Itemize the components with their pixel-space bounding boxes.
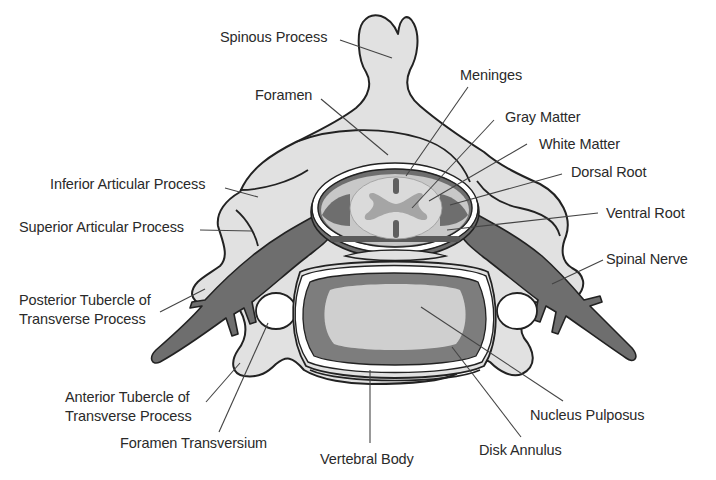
label-text: Foramen [255,87,312,103]
label-foramen: Foramen [255,86,312,105]
label-anterior-tubercle: Anterior Tubercle ofTransverse Process [65,388,192,426]
label-text: Superior Articular Process [19,219,184,235]
foramen-transversarium-left [256,293,296,329]
label-white-matter: White Matter [539,135,620,154]
label-text: Foramen Transversium [120,435,267,451]
label-text: Disk Annulus [479,442,562,458]
label-inferior-articular-process: Inferior Articular Process [50,175,205,194]
spinal-canal [311,163,479,258]
label-text: Vertebral Body [320,451,414,467]
label-spinal-nerve: Spinal Nerve [606,250,688,269]
label-text: Spinal Nerve [606,251,688,267]
dorsal-median-sulcus [393,178,399,194]
label-meninges: Meninges [460,66,522,85]
label-text-line2: Transverse Process [65,408,192,424]
label-text: Spinous Process [220,29,327,45]
label-gray-matter: Gray Matter [505,108,580,127]
label-nucleus-pulposus: Nucleus Pulposus [530,406,644,425]
label-posterior-tubercle: Posterior Tubercle ofTransverse Process [19,291,151,329]
label-vertebral-body: Vertebral Body [320,450,414,469]
label-ventral-root: Ventral Root [606,204,685,223]
label-text: Ventral Root [606,205,685,221]
ventral-median-fissure [393,220,399,238]
label-text: Posterior Tubercle of [19,292,151,308]
label-text: Gray Matter [505,109,580,125]
label-text: Nucleus Pulposus [530,407,644,423]
label-text: White Matter [539,136,620,152]
label-text: Dorsal Root [571,164,646,180]
label-foramen-transversium: Foramen Transversium [120,434,267,453]
label-text-line2: Transverse Process [19,311,146,327]
label-text: Inferior Articular Process [50,176,205,192]
label-disk-annulus: Disk Annulus [479,441,562,460]
label-dorsal-root: Dorsal Root [571,163,646,182]
label-text: Anterior Tubercle of [65,389,190,405]
foramen-transversarium-right [497,293,537,329]
vertebral-body-group [293,250,496,381]
label-spinous-process: Spinous Process [220,28,327,47]
label-text: Meninges [460,67,522,83]
label-superior-articular-process: Superior Articular Process [19,218,184,237]
nucleus-pulposus [324,284,465,350]
